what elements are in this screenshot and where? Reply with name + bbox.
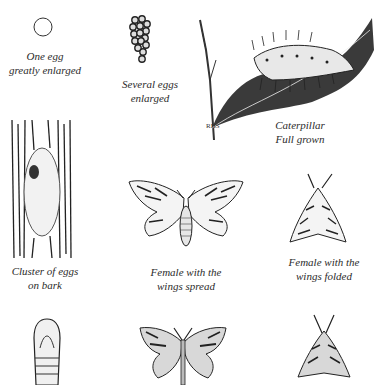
caption-egg-cluster: Cluster of eggs on bark (0, 264, 90, 292)
caption-line: wings spread (136, 279, 236, 293)
caption-line: Full grown (255, 132, 345, 146)
caption-line: wings folded (274, 269, 374, 283)
egg-cluster-small-illustration (125, 14, 155, 64)
caption-caterpillar: Caterpillar Full grown (255, 118, 345, 146)
caption-line: Female with the (136, 265, 236, 279)
caption-line: Several eggs (105, 77, 195, 91)
caption-female-spread: Female with the wings spread (136, 265, 236, 293)
egg-cluster-bark-illustration (8, 120, 74, 258)
caption-line: enlarged (105, 91, 195, 105)
caption-female-folded: Female with the wings folded (274, 255, 374, 283)
female-moth-folded-illustration (288, 172, 356, 248)
caption-line: Cluster of eggs (0, 264, 90, 278)
caption-one-egg: One egg greatly enlarged (0, 49, 90, 77)
male-moth-folded-illustration (296, 313, 352, 385)
single-egg-illustration (32, 16, 54, 38)
pupa-illustration (30, 318, 64, 385)
caption-line: greatly enlarged (0, 63, 90, 77)
caption-several-eggs: Several eggs enlarged (105, 77, 195, 105)
caption-line: Female with the (274, 255, 374, 269)
caption-line: on bark (0, 278, 90, 292)
caption-line: One egg (0, 49, 90, 63)
artist-signature: RHS (206, 122, 220, 130)
caption-line: Caterpillar (255, 118, 345, 132)
male-moth-spread-illustration (138, 322, 228, 385)
female-moth-spread-illustration (127, 174, 245, 252)
